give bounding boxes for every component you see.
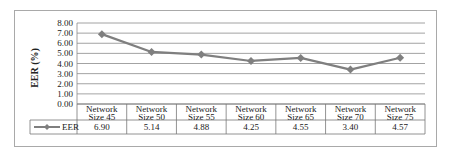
y-tick-label: 4.00 xyxy=(57,59,73,69)
legend-diamond-icon xyxy=(44,124,50,130)
y-tick-label: 5.00 xyxy=(57,48,73,58)
category-label: Size 70 xyxy=(337,112,364,122)
y-tick-label: 6.00 xyxy=(57,38,73,48)
y-axis-label: EER (%) xyxy=(29,48,41,88)
data-value: 4.88 xyxy=(193,122,209,132)
data-value: 4.55 xyxy=(293,122,309,132)
y-tick-label: 8.00 xyxy=(57,18,73,28)
data-point-marker xyxy=(297,54,305,62)
series-eer xyxy=(98,30,404,73)
data-value: 5.14 xyxy=(144,122,160,132)
legend-label: EER xyxy=(62,122,79,132)
category-label: Size 55 xyxy=(188,112,215,122)
data-value: 6.90 xyxy=(94,122,110,132)
data-point-marker xyxy=(346,66,354,74)
y-tick-label: 3.00 xyxy=(57,69,73,79)
data-point-marker xyxy=(148,48,156,56)
eer-line-chart: 0.001.002.003.004.005.006.007.008.00 EER… xyxy=(0,0,450,155)
y-tick-label: 0.00 xyxy=(57,99,73,109)
data-point-marker xyxy=(197,51,205,59)
category-label: Size 50 xyxy=(138,112,165,122)
data-value: 3.40 xyxy=(343,122,359,132)
category-label: Size 45 xyxy=(88,112,115,122)
y-tick-label: 1.00 xyxy=(57,89,73,99)
data-value: 4.57 xyxy=(392,122,408,132)
data-value: 4.25 xyxy=(243,122,259,132)
data-table: NetworkSize 45NetworkSize 50NetworkSize … xyxy=(30,104,425,134)
category-label: Size 65 xyxy=(287,112,314,122)
y-tick-label: 2.00 xyxy=(57,79,73,89)
data-point-marker xyxy=(396,54,404,62)
category-label: Size 75 xyxy=(387,112,414,122)
y-tick-label: 7.00 xyxy=(57,28,73,38)
category-label: Size 60 xyxy=(238,112,265,122)
y-axis-ticks: 0.001.002.003.004.005.006.007.008.00 xyxy=(57,18,73,109)
data-point-marker xyxy=(98,30,106,38)
